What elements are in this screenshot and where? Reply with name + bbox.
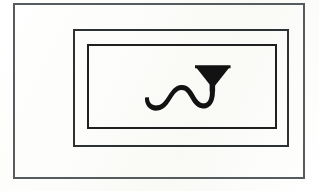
figure-canvas: Three nested rectangular borders enclosi… [0,0,319,191]
inner-frame [87,44,277,129]
